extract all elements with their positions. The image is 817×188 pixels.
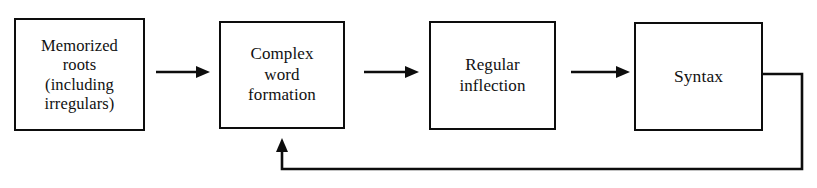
stage-box-regular-inflection: Regular inflection xyxy=(429,21,556,130)
stage-box-complex-word-formation: Complex word formation xyxy=(219,21,345,129)
stage-label-regular-inflection: Regular inflection xyxy=(455,55,529,96)
right-arrow-icon xyxy=(156,65,210,79)
stage-box-memorized-roots: Memorized roots (including irregulars) xyxy=(14,18,145,131)
stage-box-syntax: Syntax xyxy=(634,22,763,131)
stage-label-complex-word-formation: Complex word formation xyxy=(244,44,320,105)
flowchart-diagram: Memorized roots (including irregulars) C… xyxy=(0,0,817,188)
stage-label-syntax: Syntax xyxy=(670,66,727,87)
stage-label-memorized-roots: Memorized roots (including irregulars) xyxy=(37,36,122,113)
right-arrow-icon xyxy=(571,65,630,79)
right-arrow-icon xyxy=(364,65,419,79)
